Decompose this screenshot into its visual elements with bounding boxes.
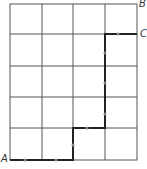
label-b: B xyxy=(139,0,146,9)
grid-diagram xyxy=(0,0,147,169)
label-a: A xyxy=(1,154,8,164)
label-c: C xyxy=(140,29,147,39)
